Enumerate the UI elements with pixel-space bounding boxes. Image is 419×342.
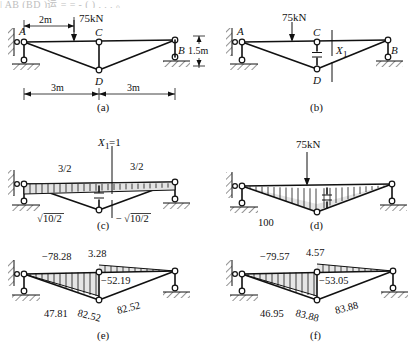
panel-caption-c: (c) [97, 219, 110, 232]
node-label-c-b: C [313, 26, 321, 38]
ground-support-c-left [12, 205, 40, 211]
panel-e: −78.28 3.28 −52.19 47.81 82.52 82.52 (e) [0, 238, 210, 342]
ground-support-e-left [12, 295, 40, 301]
redundant-force-label-b: X 1 [335, 44, 348, 59]
wall-support-b [226, 28, 232, 56]
ground-support-a-left [12, 64, 40, 70]
dim-3m-left-label: 3m [51, 82, 64, 93]
unit-load-label-c: X 1 =1 [97, 136, 121, 151]
svg-text:10/2: 10/2 [130, 213, 149, 224]
wall-support-c [8, 170, 14, 196]
force-diagram-d [242, 184, 392, 212]
wall-support-a [8, 28, 14, 56]
panel-caption-e: (e) [97, 329, 110, 342]
value-bottom-d: 100 [258, 217, 274, 228]
node-label-b-b: B [391, 44, 398, 56]
value-right-top-f: −53.05 [319, 275, 349, 286]
value-top-chord-e: −78.28 [42, 251, 72, 262]
dim-3m-right-label: 3m [127, 82, 140, 93]
ground-support-c-right [163, 203, 190, 209]
ground-support-b-left [230, 64, 258, 70]
dim-chain-a [24, 88, 175, 100]
dim-1p5m-label: 1.5m [188, 45, 209, 56]
panel-d: 75kN 100 (d) [210, 124, 419, 230]
value-diag-left-f: 46.95 [260, 308, 284, 319]
svg-text:=1: =1 [109, 136, 121, 148]
value-diag-left-e: 47.81 [44, 308, 68, 319]
cropped-text-fragment: | AB (BD )运 = = - ( ) , , , 。 [0, 0, 419, 8]
panel-a: 75kN 2m A C D B [0, 12, 210, 112]
svg-text:10/2: 10/2 [43, 213, 62, 224]
node-label-d-b: D [312, 74, 321, 86]
svg-text:1: 1 [343, 49, 348, 59]
panel-caption-a: (a) [97, 101, 110, 114]
cut-member-cd-b [312, 45, 322, 65]
value-peak-e: 3.28 [88, 248, 106, 259]
ground-support-d-left [230, 207, 258, 213]
panel-b: 75kN A C D B X 1 (b) [210, 12, 419, 112]
node-label-a: A [18, 25, 26, 37]
ground-support-d-right [380, 205, 407, 211]
value-top-right-c: 3/2 [130, 161, 143, 172]
force-diagram-left-f [242, 272, 317, 296]
panel-caption-f: (f) [310, 329, 321, 342]
node-label-a-b: A [236, 25, 244, 37]
svg-text:−: − [116, 213, 122, 224]
node-label-d: D [94, 75, 103, 87]
value-bottom-right-f: 83.88 [334, 300, 360, 316]
figure-truss-force-method: | AB (BD )运 = = - ( ) , , , 。 [0, 0, 419, 342]
panel-caption-d: (d) [310, 219, 323, 232]
value-bottom-right-e: 82.52 [116, 300, 142, 316]
load-label-a: 75kN [79, 12, 104, 24]
panel-caption-b: (b) [310, 101, 323, 114]
load-label-b: 75kN [282, 11, 307, 23]
value-top-chord-f: −79.57 [260, 251, 290, 262]
load-label-d: 75kN [296, 138, 321, 150]
value-diag-right-c: − √ 10/2 [116, 213, 151, 224]
ground-support-a-right [163, 61, 190, 67]
value-bottom-left-f: 83.88 [295, 307, 321, 323]
force-diagram-left-e [24, 272, 99, 296]
ground-support-e-right [163, 292, 190, 298]
wall-support-f [226, 260, 232, 286]
ground-support-f-right [381, 292, 408, 298]
node-label-c: C [95, 26, 103, 38]
ground-support-b-right [376, 61, 403, 67]
value-right-top-e: −52.19 [101, 275, 131, 286]
value-bottom-left-e: 82.52 [77, 307, 103, 323]
wall-support-e [8, 260, 14, 286]
ground-support-f-left [230, 295, 258, 301]
wall-support-d [226, 172, 232, 198]
panel-f: −79.57 4.57 −53.05 46.95 83.88 83.88 (f) [210, 238, 419, 342]
panel-c: X 1 =1 3/2 3/2 √ 10/2 − √ 10/2 (c) [0, 124, 210, 230]
node-label-b: B [178, 44, 185, 56]
load-arrow-b [289, 22, 295, 42]
value-diag-left-c: √ 10/2 [37, 213, 64, 224]
load-arrow-d [304, 152, 310, 186]
value-peak-f: 4.57 [306, 247, 324, 258]
dim-2m-label: 2m [39, 14, 52, 25]
value-top-left-c: 3/2 [58, 163, 71, 174]
